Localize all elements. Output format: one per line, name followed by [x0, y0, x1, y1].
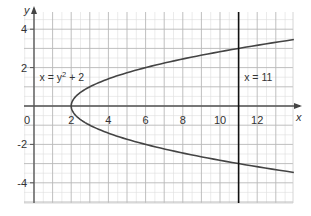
x-tick-label: 4	[105, 114, 111, 126]
y-axis-label: y	[23, 4, 31, 16]
x-tick-label: 8	[180, 114, 186, 126]
parabola-equation-label: x = y2 + 2	[40, 70, 85, 83]
x-tick-label: 10	[214, 114, 226, 126]
grid-major	[24, 12, 293, 203]
y-axis-arrow-icon	[31, 6, 37, 14]
chart-container: xy 02468101242-2-4 x = y2 + 2x = 11	[0, 0, 311, 216]
y-tick-label: 4	[21, 23, 27, 35]
y-tick-label: -4	[17, 177, 27, 189]
y-tick-label: 2	[21, 62, 27, 74]
x-tick-label: 12	[251, 114, 263, 126]
x-tick-label: 6	[143, 114, 149, 126]
x-tick-label: 0	[24, 114, 30, 126]
x-axis-arrow-icon	[294, 103, 302, 109]
y-tick-label: -2	[17, 138, 27, 150]
x-axis-label: x	[295, 111, 302, 123]
grid-minor	[24, 12, 293, 203]
vertical-line-label: x = 11	[244, 71, 272, 83]
annotations: x = y2 + 2x = 11	[40, 70, 273, 83]
x-tick-label: 2	[68, 114, 74, 126]
parabola-plot: xy 02468101242-2-4 x = y2 + 2x = 11	[0, 0, 311, 216]
